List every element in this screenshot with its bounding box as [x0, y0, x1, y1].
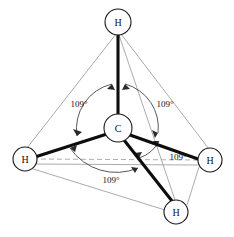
frame-edge-right-bottom	[187, 167, 199, 205]
atom-label-c-center: C	[115, 123, 122, 134]
frame-edge-left-right	[33, 164, 198, 165]
angle-label-bottom-left: 109°	[102, 175, 120, 185]
angle-label-top-right: 109°	[156, 99, 174, 109]
angle-label-top-left: 109°	[70, 99, 88, 109]
atom-h-bottom[interactable]: H	[164, 200, 188, 224]
atom-label-h-left: H	[21, 154, 28, 165]
atom-label-h-top: H	[114, 17, 121, 28]
molecule-diagram: H H H H C 109° 109° 109° 109°	[0, 0, 234, 237]
bond-c-h-left	[35, 134, 107, 157]
atom-label-h-bottom: H	[172, 207, 179, 218]
atom-h-left[interactable]: H	[13, 147, 37, 171]
arc-bottom-left	[70, 148, 138, 172]
frame-edge-left-bottom	[30, 168, 165, 210]
atom-h-right[interactable]: H	[198, 148, 222, 172]
atom-label-h-right: H	[206, 155, 213, 166]
atom-h-top[interactable]: H	[105, 9, 131, 35]
molecule-canvas: H H H H C 109° 109° 109° 109°	[0, 0, 234, 237]
frame-edge-top-left	[27, 34, 116, 148]
atom-c-center[interactable]: C	[104, 114, 132, 142]
arc-head-top-left-b	[73, 129, 82, 136]
angle-labels: 109° 109° 109° 109°	[70, 99, 187, 185]
angle-label-mid-right: 109°	[169, 152, 187, 162]
frame-edge-top-right	[121, 34, 209, 149]
